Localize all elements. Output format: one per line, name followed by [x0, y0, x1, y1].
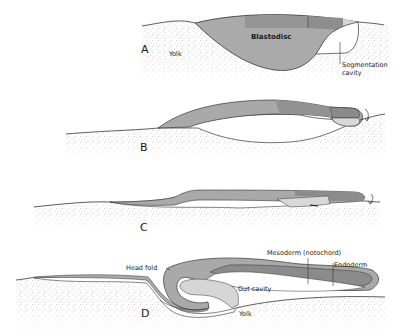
panel-letter-a: A [141, 44, 149, 55]
label-blastodisc: Blastodisc [251, 34, 292, 41]
panel-letter-b: B [140, 142, 148, 153]
label-gut-cavity: Gut cavity [238, 286, 271, 293]
embryo-development-diagram: A B C D Blastodisc Yolk Segmentation cav… [0, 0, 402, 336]
label-yolk-d: Yolk [239, 311, 252, 318]
panel-letter-d: D [141, 308, 149, 319]
label-endoderm: Endoderm [334, 262, 367, 269]
panel-d [15, 258, 390, 332]
panel-c [30, 190, 385, 230]
label-segmentation: Segmentation [342, 62, 388, 69]
label-mesoderm: Mesoderm (notochord) [267, 250, 341, 257]
panel-letter-c: C [140, 222, 148, 233]
label-cavity: cavity [342, 70, 362, 77]
panel-b [60, 100, 390, 160]
diagram-svg [0, 0, 402, 336]
label-yolk-a: Yolk [169, 51, 182, 58]
label-head-fold: Head fold [126, 265, 157, 272]
